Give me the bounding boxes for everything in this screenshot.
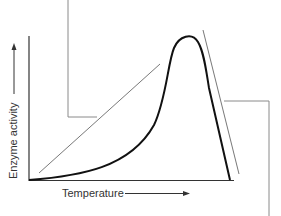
x-axis-arrow-icon xyxy=(125,191,190,196)
enzyme-temperature-diagram: Enzyme activity Temperature xyxy=(0,0,281,216)
y-axis-label-group: Enzyme activity xyxy=(7,102,19,179)
enzyme-activity-curve xyxy=(29,36,230,180)
leader-line-right xyxy=(224,101,269,216)
y-axis-arrow-icon xyxy=(12,43,17,94)
falling-rate-line xyxy=(203,30,239,174)
leader-line-left xyxy=(68,0,97,117)
y-axis-label: Enzyme activity xyxy=(7,102,19,179)
x-axis-label: Temperature xyxy=(62,187,124,199)
rising-rate-line xyxy=(39,64,160,173)
